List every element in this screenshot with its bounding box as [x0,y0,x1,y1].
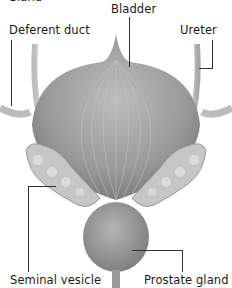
leader-prostate-h [132,250,183,251]
label-ureter: Ureter [180,24,217,37]
leader-prostate-v [182,250,183,272]
label-deferent-duct: Deferent duct [9,24,90,37]
ureter-right [202,108,232,114]
label-prostate-gland: Prostate gland [144,274,229,287]
anatomy-illustration [0,0,232,288]
label-seminal-vesicle: Seminal vesicle [10,274,101,287]
urethra [112,270,120,288]
prostate-shape [83,202,149,272]
leader-seminal-vesicle-h [28,186,56,187]
ureter-left [0,108,30,114]
leader-deferent-duct [11,40,12,106]
leader-bladder [129,17,130,67]
label-bladder: Bladder [111,3,156,16]
leader-ureter-h [199,68,213,69]
leader-seminal-vesicle-v [28,186,29,272]
title-partial: Gland [8,0,42,4]
leader-ureter-v [212,40,213,69]
